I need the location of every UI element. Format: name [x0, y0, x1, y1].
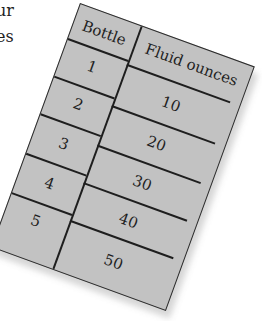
header-bottle: Bottle: [71, 14, 137, 53]
data-table: Bottle Fluid ounces 1 10 2 20 3 30 4 40 …: [0, 3, 255, 311]
intro-line-2: es: [0, 26, 14, 48]
cell-bottle-5: 5: [3, 202, 69, 241]
cell-ounces-2: 20: [102, 116, 212, 171]
intro-text: ur es: [0, 0, 14, 48]
table-card: Bottle Fluid ounces 1 10 2 20 3 30 4 40 …: [0, 3, 255, 311]
cell-ounces-1: 10: [116, 77, 226, 132]
intro-line-1: ur: [0, 0, 14, 22]
header-fluid-ounces: Fluid ounces: [131, 36, 252, 95]
